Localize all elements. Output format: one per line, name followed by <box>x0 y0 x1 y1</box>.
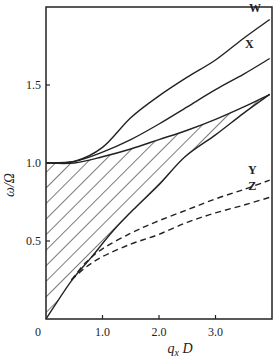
curve-label-z: Z <box>248 179 256 193</box>
origin-label: 0 <box>35 325 41 339</box>
y-axis-title: ω/Ω <box>2 173 17 197</box>
curve-label-w: W <box>249 1 261 15</box>
x-tick-label: 3.0 <box>208 325 223 339</box>
dispersion-chart: 1.02.03.0 0.51.01.5 WXYZ 0 qx D ω/Ω <box>0 0 278 360</box>
y-tick-label: 1.5 <box>26 78 41 92</box>
curve-labels: WXYZ <box>245 1 261 193</box>
x-axis-title: qx D <box>167 341 192 358</box>
curve-label-y: Y <box>248 163 257 177</box>
x-tick-label: 1.0 <box>95 325 110 339</box>
x-tick-label: 2.0 <box>152 325 167 339</box>
y-tick-label: 1.0 <box>26 156 41 170</box>
curve-label-x: X <box>245 37 254 51</box>
y-tick-label: 0.5 <box>26 234 41 248</box>
